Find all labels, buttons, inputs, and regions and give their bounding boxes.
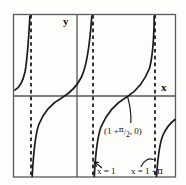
y-axis-label: y bbox=[63, 16, 69, 27]
point-annotation-open: (1 + bbox=[104, 126, 119, 136]
asymptote-right-label-pi: π bbox=[157, 166, 163, 176]
point-annotation-leader bbox=[128, 97, 131, 123]
point-annotation-fraction: π/2 bbox=[119, 126, 130, 139]
asymptote-label-x-equals-1: x = 1 bbox=[97, 167, 116, 176]
x-axis-label: x bbox=[161, 82, 167, 93]
asymptote-right-label-prefix: x = 1 + bbox=[131, 166, 157, 176]
point-annotation-close: , 0) bbox=[130, 126, 142, 136]
graph-canvas bbox=[0, 0, 186, 185]
curve-branch-left-upper bbox=[15, 16, 30, 90]
asymptote-label-x-equals-1-plus-pi: x = 1 +π bbox=[131, 167, 163, 176]
math-graph-figure: y x (1 +π/2, 0) x = 1 x = 1 +π bbox=[0, 0, 186, 185]
point-annotation-label: (1 +π/2, 0) bbox=[104, 126, 142, 139]
point-annotation-denominator: 2 bbox=[126, 130, 130, 139]
